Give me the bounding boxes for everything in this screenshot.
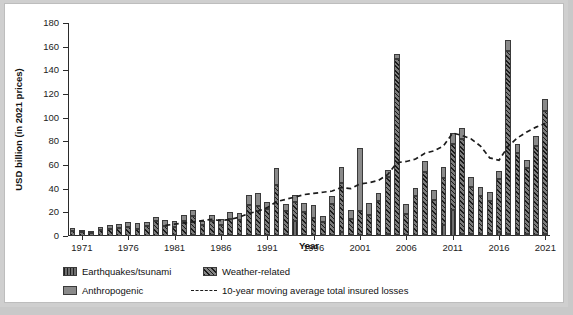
legend-label-moving-average: 10-year moving average total insured los… xyxy=(222,285,408,296)
y-tick-label: 180 xyxy=(37,18,59,28)
y-axis-title-text: USD billion (in 2021 prices) xyxy=(13,68,24,190)
y-tick-label: 80 xyxy=(37,136,59,146)
y-tick-label: 100 xyxy=(37,113,59,123)
anthropogenic-swatch-icon xyxy=(63,286,77,295)
y-axis-title: USD billion (in 2021 prices) xyxy=(11,23,25,236)
y-tick-label: 20 xyxy=(37,207,59,217)
legend-label-weather: Weather-related xyxy=(222,266,290,277)
legend-item-anthropogenic: Anthropogenic xyxy=(63,282,143,298)
legend-row-1: Earthquakes/tsunami Weather-related xyxy=(63,263,533,279)
x-axis-title: Year xyxy=(68,240,550,251)
dashed-line-swatch-icon xyxy=(191,286,217,295)
legend-item-moving-average: 10-year moving average total insured los… xyxy=(191,282,408,298)
plot-area: 020406080100120140160180 197119761981198… xyxy=(68,23,550,236)
y-tick xyxy=(63,236,68,237)
y-tick-label: 120 xyxy=(37,89,59,99)
legend-label-earthquakes: Earthquakes/tsunami xyxy=(82,266,171,277)
legend-label-anthropogenic: Anthropogenic xyxy=(82,285,143,296)
y-tick-label: 40 xyxy=(37,184,59,194)
y-tick-label: 0 xyxy=(37,231,59,241)
earthquake-swatch-icon xyxy=(63,267,77,276)
chart-frame: USD billion (in 2021 prices) 02040608010… xyxy=(4,3,564,303)
legend-item-weather: Weather-related xyxy=(203,263,290,279)
chart-legend: Earthquakes/tsunami Weather-related Anth… xyxy=(63,263,533,303)
legend-row-2: Anthropogenic 10-year moving average tot… xyxy=(63,282,533,298)
chart-figure: USD billion (in 2021 prices) 02040608010… xyxy=(0,0,573,315)
moving-average-line xyxy=(68,23,550,236)
y-tick-label: 140 xyxy=(37,65,59,75)
legend-item-earthquakes: Earthquakes/tsunami xyxy=(63,263,171,279)
weather-swatch-icon xyxy=(203,267,217,276)
y-tick-label: 160 xyxy=(37,42,59,52)
plot-card: USD billion (in 2021 prices) 02040608010… xyxy=(5,4,563,302)
y-tick-label: 60 xyxy=(37,160,59,170)
